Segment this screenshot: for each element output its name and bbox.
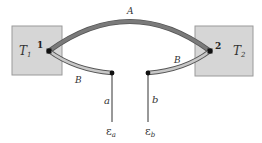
label-junction-2: 2 xyxy=(215,42,221,51)
label-wire-a: A xyxy=(127,7,134,16)
endpoint-b-dot xyxy=(146,71,151,76)
label-wire-b-left: B xyxy=(75,76,82,85)
label-t1: T1 xyxy=(19,45,31,59)
junction-1-dot xyxy=(47,49,52,54)
thermocouple-diagram xyxy=(0,0,262,143)
label-lead-a: a xyxy=(104,96,110,106)
label-t2: T2 xyxy=(233,45,245,59)
label-emf-a: εa xyxy=(106,126,116,139)
label-wire-b-right: B xyxy=(174,56,181,65)
label-emf-b: εb xyxy=(145,126,155,139)
junction-2-dot xyxy=(208,49,213,54)
label-lead-b: b xyxy=(152,95,158,105)
endpoint-a-dot xyxy=(110,71,115,76)
label-junction-1: 1 xyxy=(37,41,43,50)
